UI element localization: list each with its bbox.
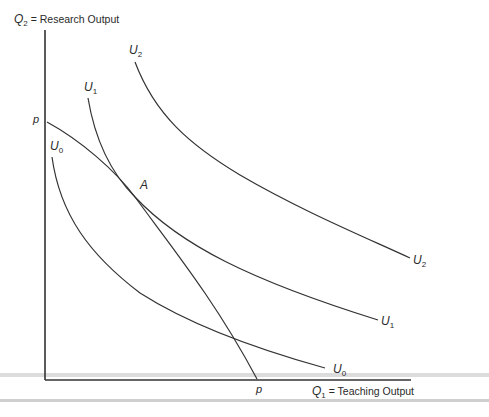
u1-start-name: U: [84, 80, 93, 94]
y-axis-var: Q: [14, 12, 23, 26]
u1-start-sub: 1: [93, 87, 97, 96]
u0-end-name: U: [333, 362, 342, 376]
u2-end-sub: 2: [422, 260, 426, 269]
u2-label-end: U2: [413, 253, 426, 269]
frontier-label-bottom: p: [256, 383, 262, 395]
u1-end-name: U: [381, 314, 390, 328]
scan-band-top: [0, 373, 489, 377]
u0-end-sub: 0: [342, 369, 346, 378]
diagram-canvas: [0, 0, 489, 417]
y-axis-label: Q2 = Research Output: [14, 12, 119, 28]
u0-start-name: U: [50, 139, 59, 153]
u0-start-sub: 0: [59, 146, 63, 155]
indifference-curve-u2: [135, 62, 410, 258]
u1-label-start: U1: [84, 80, 97, 96]
u0-label-start: U0: [50, 139, 63, 155]
production-frontier-curve: [47, 122, 257, 379]
x-axis-label: Q1 = Teaching Output: [312, 384, 414, 400]
tangency-point-label: A: [140, 178, 148, 192]
x-axis-var: Q: [312, 384, 321, 398]
u1-label-end: U1: [381, 314, 394, 330]
scan-band-bottom: [0, 399, 489, 402]
x-axis-text: = Teaching Output: [326, 385, 414, 397]
y-axis-text: = Research Output: [28, 13, 119, 25]
u0-label-end: U0: [333, 362, 346, 378]
u1-end-sub: 1: [390, 321, 394, 330]
u2-label-start: U2: [129, 43, 142, 59]
u2-end-name: U: [413, 253, 422, 267]
u2-start-sub: 2: [138, 50, 142, 59]
indifference-curve-u0: [52, 157, 325, 368]
frontier-label-top: p: [33, 113, 39, 125]
u2-start-name: U: [129, 43, 138, 57]
